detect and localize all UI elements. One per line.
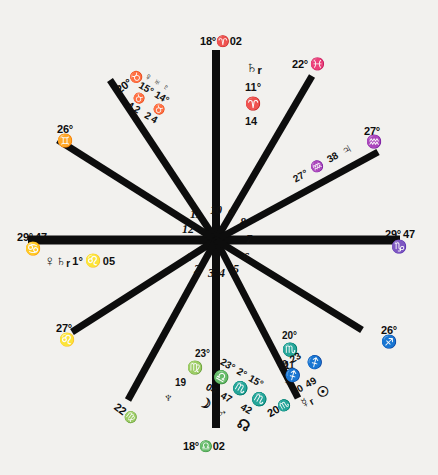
cusp-ur-degree: 22° — [292, 59, 308, 71]
house-number-10: 10 — [210, 203, 222, 218]
house-number-1: 1 — [186, 250, 192, 265]
neptune-minute: 19 — [175, 377, 186, 388]
neptune-degree: 23° — [195, 348, 210, 359]
saturn-minute: 14 — [245, 115, 257, 127]
leo-icon: ♌ — [59, 333, 75, 347]
aries-icon: ♈ — [216, 35, 230, 47]
jupiter-minute: 38 — [325, 150, 340, 165]
venus-icon: ♀♄ᵣ — [44, 252, 70, 269]
aquarius-icon-right: ♒ — [366, 135, 382, 149]
planet-group-saturn: ♄ᵣ 11° ♈ 14 — [245, 58, 262, 127]
libra-icon: ♎ — [199, 440, 213, 452]
house-number-3: 3 — [208, 266, 214, 281]
aries-icon-saturn: ♈ — [245, 96, 261, 111]
cusp-label-left-lower: 27° ♌ — [56, 323, 75, 346]
sagittarius-icon: ♐ — [381, 335, 397, 349]
cusp-top-degree: 18° — [200, 35, 216, 47]
cusp-label-left: 29°47 ♋ — [17, 232, 47, 255]
chiron-degree: 20° — [282, 330, 297, 341]
house-number-4: 4 — [219, 266, 225, 281]
venus-degree: 1° — [72, 255, 83, 267]
cusp-label-right: 29°47 ♑ — [385, 229, 415, 253]
saturn-degree: 11° — [245, 81, 261, 93]
cusp-label-left-upper: 26° ♊ — [57, 124, 73, 147]
cusp-bottom-degree: 18° — [183, 440, 199, 452]
neptune-icon: ♆ — [163, 389, 174, 405]
house-number-5: 5 — [233, 262, 239, 277]
leo-icon-venus: ♌ — [85, 253, 101, 268]
virgo-icon-neptune: ♍ — [187, 360, 203, 375]
cusp-label-bottom: 18°♎02 — [183, 437, 225, 454]
house-number-6: 6 — [243, 250, 249, 265]
cusp-bottom-minute: 02 — [213, 440, 225, 452]
cusp-label-right-upper: 27° ♒ — [364, 126, 382, 148]
pisces-icon: ♓ — [310, 58, 325, 71]
saturn-icon: ♄ᵣ — [245, 58, 262, 78]
house-number-11: 11 — [190, 207, 201, 222]
gemini-icon: ♊ — [57, 134, 73, 148]
house-number-2: 2 — [194, 262, 200, 277]
house-number-8: 8 — [240, 215, 246, 230]
cusp-label-right-lower: 26° ♐ — [381, 325, 397, 348]
planet-group-venus: ♀♄ᵣ 1° ♌ 05 — [44, 252, 115, 269]
house-number-9: 9 — [228, 206, 234, 221]
house-number-7: 7 — [246, 232, 252, 247]
house-number-12: 12 — [182, 222, 194, 237]
cancer-icon: ♋ — [25, 242, 41, 256]
cusp-top-minute: 02 — [230, 35, 242, 47]
cusp-label-top: 18°♈02 — [200, 32, 242, 49]
cusp-label-upper-right: 22°♓ — [292, 58, 325, 71]
capricorn-icon: ♑ — [391, 240, 407, 254]
venus-minute: 05 — [103, 255, 115, 267]
